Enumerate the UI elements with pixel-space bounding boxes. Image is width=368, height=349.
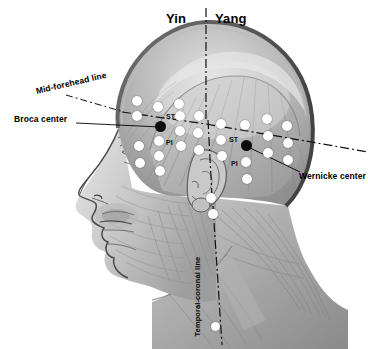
acupoint[interactable] [175,126,185,136]
acupoint[interactable] [263,148,273,158]
acupoint[interactable] [283,155,293,165]
wernicke-center-point[interactable] [241,140,252,151]
label-yang: Yang [215,11,246,26]
label-temporal-coronal-line: Temporal-coronal line [193,257,202,337]
acupoint[interactable] [216,135,226,145]
acupoint[interactable] [135,158,145,168]
acupoint[interactable] [132,96,142,106]
point-code-pi-left: PI [166,139,173,146]
acupoint[interactable] [283,138,293,148]
point-code-pi-right: PI [231,160,238,167]
point-code-st-left: ST [166,113,175,120]
acupoint[interactable] [211,322,220,331]
broca-center-point[interactable] [155,121,166,132]
acupoint[interactable] [263,131,273,141]
acupoint[interactable] [242,174,252,184]
point-code-st-right: ST [229,136,238,143]
acupoint[interactable] [262,114,272,124]
acupoint[interactable] [217,151,227,161]
acupoint[interactable] [154,151,164,161]
acupoint[interactable] [176,141,186,151]
acupoint[interactable] [216,119,226,129]
acupoint[interactable] [134,141,144,151]
acupoint[interactable] [282,121,292,131]
acupoint[interactable] [154,136,164,146]
acupoint[interactable] [155,166,165,176]
label-broca-center: Broca center [14,114,67,124]
acupoint[interactable] [153,102,163,112]
acupoint[interactable] [241,157,251,167]
diagram-canvas: ST PI ST PI Yin Yang Mid-forehead line B… [0,0,368,349]
acupoint[interactable] [194,111,204,121]
acupoint[interactable] [208,209,218,219]
acupoint[interactable] [194,145,204,155]
acupoint[interactable] [174,99,184,109]
acupoint[interactable] [206,193,216,203]
acupoint[interactable] [132,111,142,121]
label-yin: Yin [166,11,186,26]
acupoint[interactable] [175,111,185,121]
label-wernicke-center: Wernicke center [299,171,366,181]
acupoint[interactable] [193,128,203,138]
acupoint[interactable] [240,120,250,130]
